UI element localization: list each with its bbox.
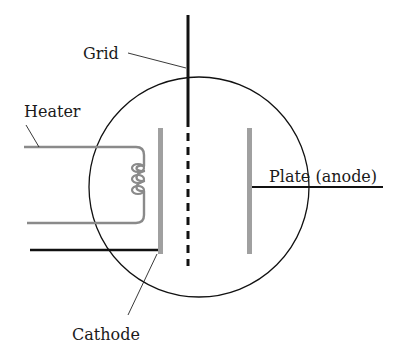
cathode-electrode — [158, 128, 163, 254]
triode-diagram: Grid Heater Plate (anode) Cathode — [0, 0, 405, 362]
heater-leader — [26, 125, 39, 147]
cathode-leader — [128, 254, 157, 315]
cathode-label: Cathode — [72, 325, 140, 344]
heater-label: Heater — [24, 102, 81, 121]
plate-electrode — [247, 128, 252, 254]
plate-label: Plate (anode) — [269, 167, 377, 186]
grid-label: Grid — [83, 44, 119, 63]
heater-wire — [24, 147, 144, 223]
grid-leader — [128, 53, 186, 68]
